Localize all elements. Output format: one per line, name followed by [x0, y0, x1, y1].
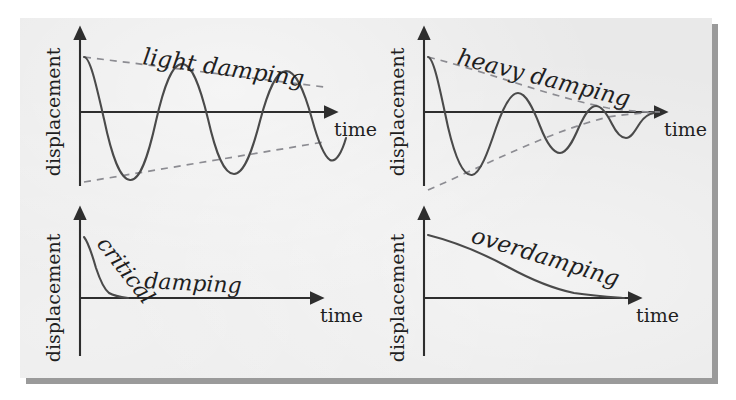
x-axis-label: time: [636, 304, 679, 326]
panel-heavy-damping: displacement time heavy damping: [378, 24, 712, 202]
overdamping-chart: displacement time overdamping: [378, 204, 712, 374]
panel-light-damping: displacement time light damping: [34, 24, 380, 202]
critical-damping-chart: displacement time critical damping: [34, 204, 380, 374]
x-axis-label: time: [320, 304, 363, 326]
y-axis-label: displacement: [386, 233, 408, 362]
panel-title-heavy-damping: heavy damping: [455, 44, 633, 112]
panel-title-overdamping: overdamping: [469, 222, 623, 292]
y-axis-label: displacement: [42, 47, 64, 176]
y-axis-label: displacement: [386, 47, 408, 176]
panel-title-damping: damping: [144, 268, 243, 298]
panel-critical-damping: displacement time critical damping: [34, 204, 380, 374]
lower-envelope: [84, 142, 324, 182]
x-axis-label: time: [664, 118, 707, 140]
panel-overdamping: displacement time overdamping: [378, 204, 712, 374]
light-damping-chart: displacement time light damping: [34, 24, 380, 202]
damping-figure: displacement time light damping displace…: [20, 18, 712, 378]
lower-envelope: [428, 112, 660, 190]
x-axis-label: time: [334, 118, 377, 140]
heavy-damping-chart: displacement time heavy damping: [378, 24, 712, 202]
y-axis-label: displacement: [42, 233, 64, 362]
